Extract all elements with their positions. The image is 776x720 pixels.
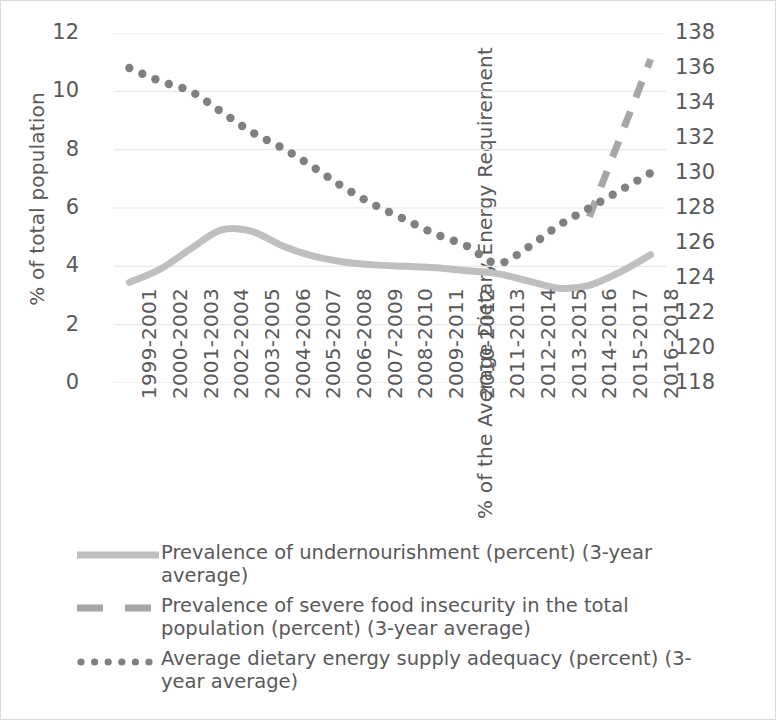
data-point xyxy=(423,226,431,234)
x-axis-ticks: 1999-20012000-20022001-20032002-20042003… xyxy=(114,387,666,537)
x-tick-2006-2008: 2006-2008 xyxy=(352,288,376,399)
data-point xyxy=(463,242,471,250)
x-tick-2010-2012: 2010-2012 xyxy=(475,288,499,399)
x-tick-2001-2003: 2001-2003 xyxy=(199,288,223,399)
y-tick-left-6: 6 xyxy=(23,197,79,218)
legend-item[interactable]: Average dietary energy supply adequacy (… xyxy=(75,647,715,693)
y-axis-right-ticks: 138136134132130128126124122120118 xyxy=(675,1,731,401)
data-point xyxy=(151,75,159,83)
x-tick-2004-2006: 2004-2006 xyxy=(291,288,315,399)
data-point xyxy=(178,84,186,92)
x-tick-2011-2013: 2011-2013 xyxy=(505,288,529,399)
data-point xyxy=(165,80,173,88)
x-tick-2005-2007: 2005-2007 xyxy=(321,288,345,399)
data-point xyxy=(524,243,532,251)
y-axis-left-ticks: 121086420 xyxy=(23,1,79,401)
data-point xyxy=(125,64,133,72)
data-point xyxy=(450,237,458,245)
data-point xyxy=(335,180,343,188)
y-tick-right-136: 136 xyxy=(675,57,731,78)
data-point xyxy=(226,114,234,122)
legend-item[interactable]: Prevalence of severe food insecurity in … xyxy=(75,594,715,640)
x-tick-1999-2001: 1999-2001 xyxy=(137,288,161,399)
data-point xyxy=(398,214,406,222)
data-point xyxy=(646,169,654,177)
y-tick-right-138: 138 xyxy=(675,22,731,43)
data-point xyxy=(500,258,508,266)
data-point xyxy=(486,258,494,266)
chart-container: % of total population % of the Average D… xyxy=(0,0,776,720)
legend-label: Prevalence of severe food insecurity in … xyxy=(161,594,701,640)
data-point xyxy=(410,220,418,228)
data-point xyxy=(547,226,555,234)
y-tick-right-130: 130 xyxy=(675,162,731,183)
y-tick-left-12: 12 xyxy=(23,22,79,43)
data-point xyxy=(436,232,444,240)
y-tick-right-126: 126 xyxy=(675,232,731,253)
x-tick-2003-2005: 2003-2005 xyxy=(260,288,284,399)
x-tick-2014-2016: 2014-2016 xyxy=(597,288,621,399)
data-point xyxy=(288,149,296,157)
y-tick-left-10: 10 xyxy=(23,80,79,101)
x-tick-2012-2014: 2012-2014 xyxy=(536,288,560,399)
data-point xyxy=(275,142,283,150)
data-point xyxy=(621,183,629,191)
x-tick-2008-2010: 2008-2010 xyxy=(413,288,437,399)
legend-item[interactable]: Prevalence of undernourishment (percent)… xyxy=(75,541,715,587)
data-point xyxy=(323,172,331,180)
y-tick-right-134: 134 xyxy=(675,92,731,113)
data-point xyxy=(385,208,393,216)
y-tick-left-0: 0 xyxy=(23,372,79,393)
data-point xyxy=(559,218,567,226)
data-point xyxy=(571,211,579,219)
data-point xyxy=(203,98,211,106)
data-point xyxy=(191,90,199,98)
data-point xyxy=(238,122,246,130)
x-tick-2002-2004: 2002-2004 xyxy=(229,288,253,399)
data-point xyxy=(475,250,483,258)
legend-key-dashed-icon xyxy=(75,594,161,620)
data-point xyxy=(359,195,367,203)
data-point xyxy=(633,176,641,184)
chart-legend: Prevalence of undernourishment (percent)… xyxy=(75,541,715,700)
legend-key-dotted-icon xyxy=(75,647,161,673)
data-point xyxy=(312,165,320,173)
y-tick-right-120: 120 xyxy=(675,337,731,358)
data-point xyxy=(596,198,604,206)
y-tick-right-118: 118 xyxy=(675,372,731,393)
legend-key-solid-icon xyxy=(75,541,161,567)
data-point xyxy=(372,202,380,210)
data-point xyxy=(584,205,592,213)
data-point xyxy=(263,136,271,144)
y-tick-left-4: 4 xyxy=(23,255,79,276)
data-point xyxy=(138,70,146,78)
x-tick-2015-2017: 2015-2017 xyxy=(628,288,652,399)
data-point xyxy=(250,129,258,137)
data-point xyxy=(536,235,544,243)
series-undernourishment-line xyxy=(129,228,650,288)
x-tick-2016-2018: 2016-2018 xyxy=(659,288,683,399)
y-tick-right-128: 128 xyxy=(675,197,731,218)
data-point xyxy=(609,190,617,198)
legend-label: Average dietary energy supply adequacy (… xyxy=(161,647,701,693)
data-point xyxy=(300,157,308,165)
series-severe-food-insecurity-line xyxy=(589,59,650,217)
x-tick-2013-2015: 2013-2015 xyxy=(567,288,591,399)
data-point xyxy=(513,251,521,259)
y-tick-left-8: 8 xyxy=(23,139,79,160)
y-tick-right-122: 122 xyxy=(675,302,731,323)
x-tick-2007-2009: 2007-2009 xyxy=(383,288,407,399)
x-tick-2000-2002: 2000-2002 xyxy=(168,288,192,399)
data-point xyxy=(347,188,355,196)
data-point xyxy=(214,106,222,114)
y-tick-right-124: 124 xyxy=(675,267,731,288)
x-tick-2009-2011: 2009-2011 xyxy=(444,288,468,399)
y-tick-left-2: 2 xyxy=(23,314,79,335)
legend-label: Prevalence of undernourishment (percent)… xyxy=(161,541,701,587)
y-tick-right-132: 132 xyxy=(675,127,731,148)
